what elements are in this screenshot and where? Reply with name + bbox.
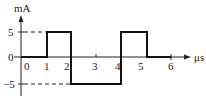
x-tick-label-1: 1 xyxy=(44,60,50,72)
y-axis-arrow-icon xyxy=(19,15,24,22)
x-tick-label-2: 2 xyxy=(64,60,70,72)
current-waveform xyxy=(21,32,171,84)
x-tick-label-6: 6 xyxy=(168,60,174,72)
waveform-chart: mA 5 0 −5 0 1 2 3 4 5 6 μs xyxy=(0,0,206,100)
y-tick-label-minus5: −5 xyxy=(3,78,15,90)
x-tick-label-5: 5 xyxy=(138,60,144,72)
x-tick-label-4: 4 xyxy=(115,60,121,72)
y-unit-label: mA xyxy=(14,2,31,14)
x-axis-arrow-icon xyxy=(184,55,191,60)
y-tick-label-0: 0 xyxy=(8,51,14,63)
x-tick-label-3: 3 xyxy=(92,60,98,72)
x-unit-label: μs xyxy=(194,51,204,63)
x-tick-label-0: 0 xyxy=(24,60,30,72)
y-tick-label-5: 5 xyxy=(8,26,14,38)
